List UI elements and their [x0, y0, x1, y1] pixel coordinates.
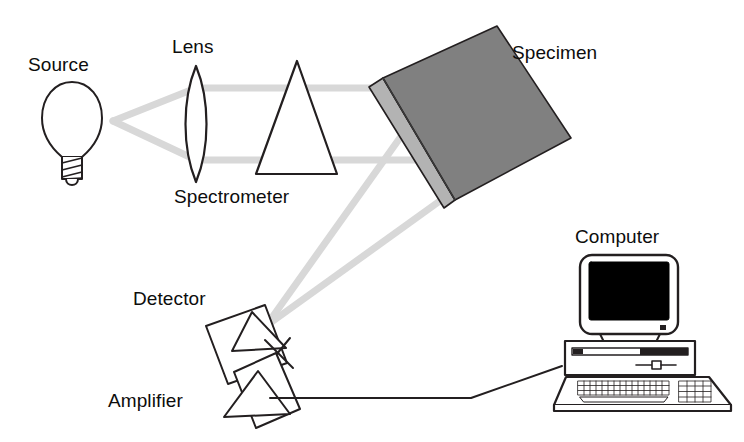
light-bulb-icon [42, 82, 102, 185]
power-indicator-icon [660, 325, 666, 330]
optical-setup-diagram [0, 0, 744, 442]
amplifier-to-computer-cable-icon [270, 366, 562, 398]
keyboard-main-keys [578, 381, 669, 395]
label-computer: Computer [575, 226, 659, 248]
prism-triangle-icon [256, 61, 337, 174]
label-detector: Detector [133, 288, 206, 310]
label-source: Source [28, 54, 89, 76]
monitor-icon [580, 255, 678, 342]
computer-icon [554, 255, 731, 411]
label-amplifier: Amplifier [108, 390, 183, 412]
keyboard-icon [554, 377, 731, 411]
detector-amplifier-cluster [206, 305, 300, 428]
keyboard-spacebar [580, 397, 668, 402]
biconvex-lens-icon [186, 66, 207, 182]
diagram-canvas: Source Lens Spectrometer Specimen Detect… [0, 0, 744, 442]
case-knob-icon [652, 361, 661, 369]
label-specimen: Specimen [512, 42, 597, 64]
label-spectrometer: Spectrometer [174, 186, 289, 208]
beam-source-to-lens-icon [113, 88, 196, 160]
label-lens: Lens [172, 36, 214, 58]
monitor-screen [589, 262, 669, 320]
keyboard-numpad [679, 381, 711, 402]
system-unit-icon [565, 341, 695, 375]
